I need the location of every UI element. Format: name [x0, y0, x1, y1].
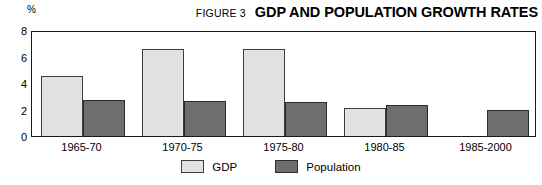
bar-gdp-1980-85: [344, 108, 386, 136]
figure-number: FIGURE 3: [196, 7, 246, 19]
plot-frame: [31, 31, 536, 137]
y-axis: 86420: [0, 31, 27, 137]
plot-area: [32, 32, 535, 136]
legend-item-gdp: GDP: [181, 160, 237, 173]
y-axis-tick-label: 4: [21, 79, 27, 90]
chart-legend: GDPPopulation: [0, 160, 542, 173]
y-axis-tick-label: 2: [21, 105, 27, 116]
bar-gdp-1970-75: [142, 49, 184, 136]
bar-population-1970-75: [184, 101, 226, 136]
y-axis-tick-label: 0: [21, 132, 27, 143]
legend-label: Population: [306, 161, 360, 173]
chart-header: % FIGURE 3 GDP AND POPULATION GROWTH RAT…: [0, 2, 542, 22]
figure-container: % FIGURE 3 GDP AND POPULATION GROWTH RAT…: [0, 0, 542, 185]
page-title: GDP AND POPULATION GROWTH RATES: [255, 4, 538, 20]
title-block: FIGURE 3 GDP AND POPULATION GROWTH RATES: [196, 4, 538, 20]
x-axis-tick-label: 1985-2000: [459, 141, 512, 153]
legend-swatch-pop: [275, 160, 298, 173]
bar-group: [436, 32, 537, 136]
bar-gdp-1965-70: [41, 76, 83, 136]
x-axis-tick-label: 1980-85: [364, 141, 404, 153]
bar-group: [133, 32, 234, 136]
x-axis-tick-label: 1965-70: [61, 141, 101, 153]
bar-population-1985-2000: [487, 110, 529, 137]
y-axis-unit-label: %: [27, 5, 36, 15]
bar-gdp-1975-80: [243, 49, 285, 136]
bar-group: [335, 32, 436, 136]
legend-label: GDP: [212, 161, 237, 173]
y-axis-tick-label: 8: [21, 26, 27, 37]
y-axis-tick-label: 6: [21, 52, 27, 63]
bar-population-1975-80: [285, 102, 327, 136]
legend-item-population: Population: [275, 160, 360, 173]
bar-group: [234, 32, 335, 136]
x-axis-tick-label: 1970-75: [162, 141, 202, 153]
x-axis: 1965-701970-751975-801980-851985-2000: [31, 141, 536, 157]
x-axis-tick-label: 1975-80: [263, 141, 303, 153]
bar-group: [32, 32, 133, 136]
legend-swatch-gdp: [181, 160, 204, 173]
bar-population-1965-70: [83, 100, 125, 136]
bar-population-1980-85: [386, 105, 428, 136]
